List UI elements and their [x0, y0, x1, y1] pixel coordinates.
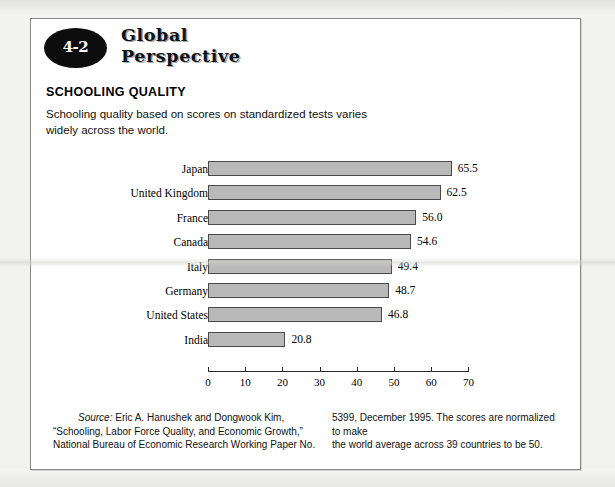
bar-value-label: 62.5: [447, 186, 467, 198]
brand-title-line-2: Perspective: [121, 46, 241, 67]
x-axis-line: [208, 371, 468, 372]
bar: [208, 185, 441, 200]
x-axis-tick: [245, 367, 246, 372]
bar: [208, 307, 382, 322]
x-axis-tick-label: 30: [314, 376, 325, 388]
bar-category-label: United States: [146, 309, 208, 321]
bar-track: [208, 332, 285, 347]
x-axis-tick: [468, 367, 469, 372]
card-header: 4-2 Global Perspective: [31, 19, 580, 81]
x-axis-tick-label: 20: [277, 376, 288, 388]
x-axis-tick-label: 70: [463, 376, 474, 388]
bar-row: France56.0: [31, 208, 580, 232]
bar-category-label: India: [184, 334, 208, 346]
bar: [208, 283, 389, 298]
bar-category-label: Canada: [174, 236, 208, 248]
global-perspective-card: 4-2 Global Perspective SCHOOLING QUALITY…: [30, 18, 581, 470]
x-axis-tick: [394, 367, 395, 372]
scan-shade-top: [0, 0, 615, 16]
bar-category-label: United Kingdom: [130, 187, 208, 199]
footnote-right-column: 5399, December 1995. The scores are norm…: [332, 411, 565, 452]
bar-value-label: 49.4: [398, 260, 418, 272]
bar-category-label: Germany: [165, 285, 208, 297]
bar-value-label: 20.8: [291, 333, 311, 345]
chapter-badge-label: 4-2: [63, 38, 89, 56]
x-axis-tick: [208, 367, 209, 372]
page-background: 4-2 Global Perspective SCHOOLING QUALITY…: [0, 0, 615, 487]
footnote-left-line-3: National Bureau of Economic Research Wor…: [53, 438, 318, 452]
footnote-right-line-2: the world average across 39 countries to…: [332, 438, 565, 452]
x-axis-tick: [282, 367, 283, 372]
bar: [208, 210, 416, 225]
bar-track: [208, 307, 382, 322]
bar-value-label: 46.8: [388, 308, 408, 320]
footnote-left-line-2: “Schooling, Labor Force Quality, and Eco…: [53, 425, 318, 439]
x-axis-tick-label: 10: [240, 376, 251, 388]
bar-category-label: Japan: [182, 163, 208, 175]
x-axis-tick: [431, 367, 432, 372]
bar-track: [208, 161, 452, 176]
bar-track: [208, 185, 441, 200]
bar: [208, 161, 452, 176]
footnote: Source: Eric A. Hanushek and Dongwook Ki…: [53, 411, 565, 452]
bar-rows: Japan65.5United Kingdom62.5France56.0Can…: [31, 159, 580, 354]
bar-row: Canada54.6: [31, 232, 580, 256]
bar-track: [208, 283, 389, 298]
bar-category-label: France: [177, 212, 208, 224]
brand-title-line-1: Global: [121, 25, 241, 46]
bar-value-label: 48.7: [395, 284, 415, 296]
bar: [208, 234, 411, 249]
bar-row: India20.8: [31, 330, 580, 354]
x-axis-tick-label: 60: [426, 376, 437, 388]
x-axis-tick-label: 40: [351, 376, 362, 388]
section-title: SCHOOLING QUALITY: [46, 85, 186, 99]
bar-track: [208, 259, 392, 274]
x-axis-tick: [357, 367, 358, 372]
bar-value-label: 54.6: [417, 235, 437, 247]
x-axis: 010203040506070: [208, 371, 468, 401]
schooling-quality-bar-chart: Japan65.5United Kingdom62.5France56.0Can…: [31, 159, 580, 399]
bar-value-label: 56.0: [422, 211, 442, 223]
footnote-left-column: Source: Eric A. Hanushek and Dongwook Ki…: [53, 411, 318, 452]
bar-track: [208, 234, 411, 249]
footnote-right-line-1: 5399, December 1995. The scores are norm…: [332, 411, 565, 438]
bar-row: United States46.8: [31, 305, 580, 329]
scan-shade-bottom: [0, 469, 615, 487]
bar-row: Germany48.7: [31, 281, 580, 305]
bar-row: United Kingdom62.5: [31, 183, 580, 207]
brand-title: Global Perspective: [121, 25, 241, 67]
bar: [208, 259, 392, 274]
x-axis-tick: [320, 367, 321, 372]
bar: [208, 332, 285, 347]
bar-row: Italy49.4: [31, 257, 580, 281]
x-axis-tick-label: 0: [205, 376, 211, 388]
bar-row: Japan65.5: [31, 159, 580, 183]
section-description: Schooling quality based on scores on sta…: [46, 107, 376, 138]
bar-track: [208, 210, 416, 225]
footnote-source-line: Source: Eric A. Hanushek and Dongwook Ki…: [53, 411, 318, 425]
chapter-badge: 4-2: [44, 28, 107, 68]
bar-value-label: 65.5: [458, 162, 478, 174]
bar-category-label: Italy: [187, 261, 208, 273]
footnote-source-word: Source:: [78, 412, 112, 423]
x-axis-tick-label: 50: [389, 376, 400, 388]
footnote-left-line-1: Eric A. Hanushek and Dongwook Kim,: [112, 412, 284, 423]
